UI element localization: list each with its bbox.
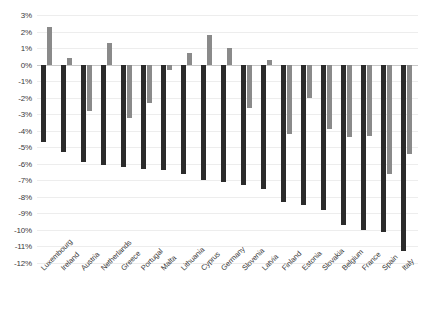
- bar-series-dark: [241, 65, 246, 186]
- bar-series-dark: [281, 65, 286, 202]
- y-axis-tick-label: -12%: [14, 259, 32, 268]
- bar-series-light: [267, 60, 272, 65]
- y-axis-tick-label: 3%: [21, 11, 32, 20]
- bar-group: [77, 15, 97, 263]
- bar-series-dark: [201, 65, 206, 181]
- y-axis-tick-label: -10%: [14, 225, 32, 234]
- bar-series-dark: [381, 65, 386, 232]
- bar-series-light: [287, 65, 292, 134]
- y-axis-tick-label: -1%: [18, 77, 32, 86]
- bar-series-dark: [301, 65, 306, 206]
- bar-group: [197, 15, 217, 263]
- bar-group: [318, 15, 338, 263]
- bar-series-light: [167, 65, 172, 70]
- bar-series-dark: [261, 65, 266, 189]
- y-axis-tick-label: 0%: [21, 60, 32, 69]
- bar-series-dark: [141, 65, 146, 169]
- bar-group: [57, 15, 77, 263]
- bar-series-light: [347, 65, 352, 138]
- bar-group: [157, 15, 177, 263]
- y-axis: 3%2%1%0%-1%-2%-3%-4%-5%-6%-7%-8%-9%-10%-…: [0, 0, 36, 332]
- bar-group: [298, 15, 318, 263]
- bar-group: [217, 15, 237, 263]
- y-axis-tick-label: -4%: [18, 126, 32, 135]
- bar-chart: 3%2%1%0%-1%-2%-3%-4%-5%-6%-7%-8%-9%-10%-…: [0, 0, 422, 332]
- y-axis-tick-label: -2%: [18, 93, 32, 102]
- bar-series-light: [247, 65, 252, 108]
- bar-series-light: [207, 35, 212, 65]
- bar-group: [278, 15, 298, 263]
- y-axis-tick-label: 1%: [21, 44, 32, 53]
- bar-series-light: [407, 65, 412, 154]
- bar-group: [177, 15, 197, 263]
- x-axis: LuxembourgIrelandAustriaNetherlandsGreec…: [37, 263, 418, 332]
- bar-series-dark: [181, 65, 186, 174]
- y-axis-tick-label: -11%: [15, 242, 32, 251]
- bar-series-light: [107, 43, 112, 64]
- bar-series-dark: [341, 65, 346, 225]
- bar-series-dark: [221, 65, 226, 182]
- bar-group: [37, 15, 57, 263]
- bar-group: [378, 15, 398, 263]
- y-axis-tick-label: -6%: [18, 159, 32, 168]
- y-axis-tick-label: 2%: [21, 27, 32, 36]
- bar-group: [258, 15, 278, 263]
- bar-series-dark: [321, 65, 326, 210]
- bar-series-light: [227, 48, 232, 65]
- bar-series-light: [367, 65, 372, 136]
- bar-series-light: [187, 53, 192, 65]
- bar-group: [238, 15, 258, 263]
- plot-area: [37, 15, 418, 263]
- bar-group: [117, 15, 137, 263]
- bar-series-light: [67, 58, 72, 65]
- bar-series-dark: [161, 65, 166, 171]
- y-axis-tick-label: -8%: [18, 192, 32, 201]
- bar-series-dark: [401, 65, 406, 252]
- bar-group: [358, 15, 378, 263]
- bar-group: [97, 15, 117, 263]
- y-axis-tick-label: -7%: [18, 176, 32, 185]
- y-axis-tick-label: -5%: [18, 143, 32, 152]
- bar-series-light: [387, 65, 392, 174]
- bar-series-light: [327, 65, 332, 129]
- bar-series-light: [307, 65, 312, 98]
- bar-series-dark: [81, 65, 86, 163]
- bar-series-light: [47, 27, 52, 65]
- bar-series-dark: [41, 65, 46, 143]
- bar-group: [398, 15, 418, 263]
- bar-series-light: [87, 65, 92, 111]
- bar-series-light: [127, 65, 132, 118]
- y-axis-tick-label: -3%: [18, 110, 32, 119]
- bar-series-dark: [61, 65, 66, 153]
- bar-series-light: [147, 65, 152, 103]
- bar-group: [137, 15, 157, 263]
- bar-series-dark: [361, 65, 366, 230]
- bar-group: [338, 15, 358, 263]
- y-axis-tick-label: -9%: [18, 209, 32, 218]
- bar-series-dark: [101, 65, 106, 166]
- bar-series-dark: [121, 65, 126, 168]
- bar-series-container: [37, 15, 418, 263]
